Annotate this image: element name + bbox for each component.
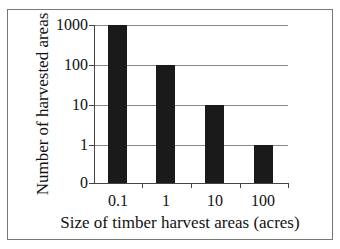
x-axis — [89, 183, 289, 184]
x-tick-label: 10 — [191, 192, 239, 210]
x-tick — [240, 183, 241, 188]
bar-0.1 — [108, 25, 127, 183]
y-axis-title: Number of harvested areas — [33, 13, 53, 196]
y-axis — [94, 25, 95, 184]
y-tick-label: 1 — [80, 137, 88, 153]
x-tick — [191, 183, 192, 188]
y-tick-label: 1000 — [56, 17, 88, 33]
bar-1 — [156, 65, 175, 183]
bar-100 — [254, 145, 273, 183]
x-tick — [142, 183, 143, 188]
bar-10 — [205, 105, 224, 183]
x-tick-label: 1 — [142, 192, 190, 210]
x-tick-label: 100 — [239, 192, 287, 210]
x-tick-label: 0.1 — [94, 192, 142, 210]
y-tick-label: 100 — [64, 57, 88, 73]
y-tick-label: 10 — [72, 97, 88, 113]
x-axis-title: Size of timber harvest areas (acres) — [30, 213, 330, 233]
x-tick — [288, 183, 289, 188]
y-tick-label: 0 — [80, 175, 88, 191]
